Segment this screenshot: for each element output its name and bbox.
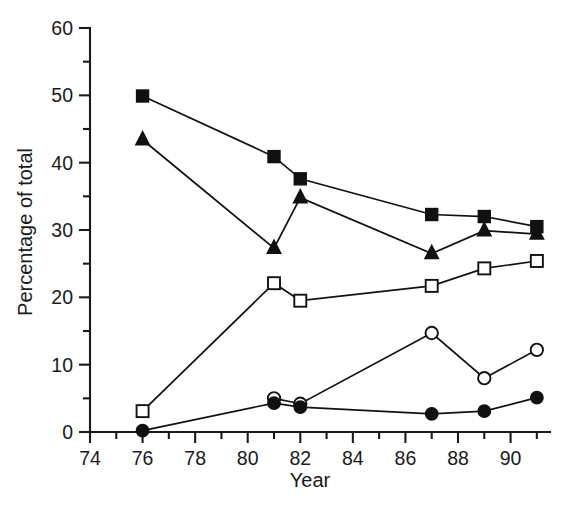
marker-filled-square — [294, 173, 306, 185]
marker-filled-triangle — [136, 132, 150, 145]
marker-filled-triangle — [477, 222, 491, 235]
marker-open-square — [294, 295, 306, 307]
marker-filled-triangle — [267, 240, 281, 253]
x-tick-label: 84 — [342, 447, 364, 469]
y-tick-label: 60 — [51, 17, 73, 39]
chart-figure: 0102030405060747678808284868890 Year Per… — [0, 0, 571, 506]
marker-open-circle — [478, 372, 490, 384]
series-open-circle — [268, 327, 543, 410]
marker-open-square — [531, 255, 543, 267]
series-filled-triangle — [136, 132, 544, 259]
series-line-filled-circle — [143, 398, 537, 431]
x-axis-title: Year — [290, 469, 331, 491]
marker-filled-circle — [268, 397, 280, 409]
marker-open-square — [268, 277, 280, 289]
marker-filled-square — [268, 151, 280, 163]
marker-open-square — [478, 262, 490, 274]
y-tick-label: 0 — [62, 421, 73, 443]
marker-open-square — [137, 405, 149, 417]
marker-filled-circle — [426, 408, 438, 420]
series-line-filled-square — [143, 96, 537, 227]
marker-filled-square — [137, 90, 149, 102]
series-filled-square — [137, 90, 543, 233]
y-tick-label: 50 — [51, 84, 73, 106]
marker-filled-square — [426, 209, 438, 221]
series-open-square — [137, 255, 543, 417]
marker-open-square — [426, 280, 438, 292]
x-tick-label: 86 — [395, 447, 417, 469]
series-line-open-circle — [274, 333, 537, 404]
y-tick-label: 40 — [51, 152, 73, 174]
marker-open-circle — [531, 344, 543, 356]
marker-open-circle — [426, 327, 438, 339]
y-tick-label: 20 — [51, 286, 73, 308]
x-tick-label: 90 — [500, 447, 522, 469]
series-line-filled-triangle — [143, 140, 537, 254]
chart-series — [136, 90, 544, 437]
y-tick-label: 30 — [51, 219, 73, 241]
marker-filled-circle — [294, 401, 306, 413]
x-tick-label: 74 — [79, 447, 101, 469]
x-tick-label: 88 — [447, 447, 469, 469]
series-line-open-square — [143, 261, 537, 411]
x-tick-label: 82 — [289, 447, 311, 469]
marker-filled-square — [478, 211, 490, 223]
x-tick-label: 76 — [132, 447, 154, 469]
marker-filled-circle — [136, 424, 148, 436]
marker-filled-triangle — [293, 189, 307, 202]
y-tick-label: 10 — [51, 354, 73, 376]
line-chart: 0102030405060747678808284868890 Year Per… — [0, 0, 571, 506]
marker-filled-circle — [531, 391, 543, 403]
x-tick-label: 78 — [184, 447, 206, 469]
marker-filled-circle — [478, 405, 490, 417]
x-tick-label: 80 — [237, 447, 259, 469]
y-axis-title: Percentage of total — [14, 148, 36, 316]
series-filled-circle — [136, 391, 543, 436]
